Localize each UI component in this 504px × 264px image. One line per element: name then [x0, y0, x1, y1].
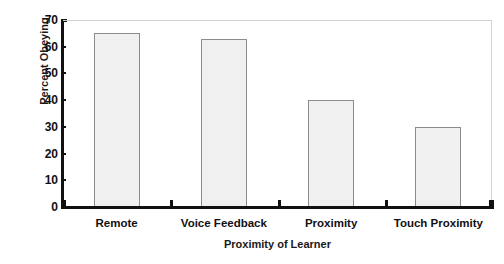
- x-axis-category-labels: RemoteVoice FeedbackProximityTouch Proxi…: [63, 216, 492, 234]
- x-axis-ticks: [63, 200, 492, 210]
- x-tick-mark: [489, 200, 492, 209]
- x-category-label: Voice Feedback: [170, 216, 277, 230]
- x-tick-mark: [63, 200, 66, 209]
- y-tick-label: 60: [28, 41, 58, 53]
- x-tick-mark: [385, 200, 388, 209]
- y-axis-ticks: 010203040506070: [28, 0, 58, 264]
- bar: [415, 127, 461, 207]
- bar: [201, 39, 247, 207]
- x-category-label: Touch Proximity: [385, 216, 492, 230]
- x-tick-mark: [278, 200, 281, 209]
- y-tick-label: 30: [28, 121, 58, 133]
- x-category-label: Remote: [63, 216, 170, 230]
- bar: [94, 33, 140, 207]
- bar-chart: Percent Obeying 010203040506070 RemoteVo…: [0, 0, 504, 264]
- x-category-label: Proximity: [278, 216, 385, 230]
- x-axis-title: Proximity of Learner: [63, 238, 492, 250]
- y-tick-label: 50: [28, 67, 58, 79]
- y-tick-label: 10: [28, 174, 58, 186]
- y-tick-label: 40: [28, 94, 58, 106]
- y-tick-label: 20: [28, 148, 58, 160]
- y-tick-label: 70: [28, 14, 58, 26]
- x-tick-mark: [170, 200, 173, 209]
- bar-series: [63, 20, 492, 207]
- y-tick-label: 0: [28, 201, 58, 213]
- bar: [308, 100, 354, 207]
